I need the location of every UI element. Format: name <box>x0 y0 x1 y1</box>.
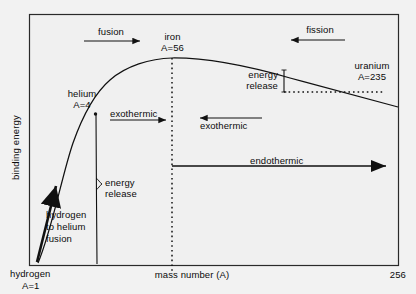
helium-label: helium <box>56 88 108 99</box>
iron-mass-label: A=56 <box>150 42 195 53</box>
energy-release-right-line1: energy <box>216 69 278 80</box>
exothermic-right-label: exothermic <box>200 120 247 131</box>
energy-release-left-line2: release <box>105 188 137 199</box>
uranium-mass-label: A=235 <box>342 71 402 82</box>
hydrogen-fusion-line2: to helium <box>46 221 85 232</box>
x-axis-label: mass number (A) <box>132 269 252 280</box>
helium-mass-label: A=4 <box>56 99 108 110</box>
fission-label: fission <box>293 24 347 35</box>
hydrogen-axis-mass-label: A=1 <box>22 280 39 291</box>
hydrogen-fusion-line1: hydrogen <box>46 209 86 220</box>
hydrogen-fusion-line3: fusion <box>46 233 72 244</box>
endothermic-label: endothermic <box>250 155 303 166</box>
uranium-label: uranium <box>342 60 402 71</box>
y-axis-label: binding energy <box>10 103 21 193</box>
helium-point-marker <box>94 112 97 115</box>
fusion-label: fusion <box>84 26 138 37</box>
iron-label: iron <box>150 31 195 42</box>
hydrogen-axis-label: hydrogen <box>10 268 50 279</box>
exothermic-left-label: exothermic <box>110 108 157 119</box>
page-number: 256 <box>350 269 406 280</box>
chart-svg <box>0 0 416 294</box>
energy-release-right-line2: release <box>216 80 278 91</box>
energy-release-left-line1: energy <box>105 177 135 188</box>
figure-canvas: binding energy fusion fission iron A=56 … <box>0 0 416 294</box>
